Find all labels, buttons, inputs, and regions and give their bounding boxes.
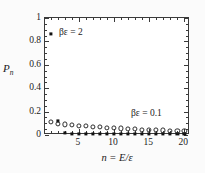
data-point-filled-square [105, 132, 108, 135]
y-tick-label: 1 [36, 12, 41, 22]
annotation-beta-epsilon-2: βε = 2 [59, 27, 83, 37]
data-point-open-circle [125, 126, 130, 131]
data-point-open-circle [55, 121, 60, 126]
y-tick-label: 0.8 [29, 35, 41, 45]
data-point-open-circle [76, 123, 81, 128]
data-point-filled-square [155, 132, 158, 135]
figure-canvas: Pn n = E/ε 00.20.40.60.81 5101520 βε = 2… [0, 0, 205, 173]
data-point-filled-square [70, 132, 73, 135]
annotation-beta-epsilon-0p1: βε = 0.1 [131, 108, 162, 118]
data-point-open-circle [111, 125, 116, 130]
data-point-open-circle [118, 126, 123, 131]
x-tick-label: 20 [179, 137, 189, 147]
data-point-open-circle [147, 127, 152, 132]
data-point-open-circle [62, 122, 67, 127]
x-tick-label: 15 [143, 137, 153, 147]
data-point-open-circle [175, 128, 180, 133]
data-point-open-circle [168, 128, 173, 133]
data-point-open-circle [140, 127, 145, 132]
data-point-open-circle [69, 122, 74, 127]
data-point-filled-square [148, 132, 151, 135]
data-point-filled-square [84, 132, 87, 135]
y-tick-label: 0.2 [29, 106, 41, 116]
plot-area: βε = 2 βε = 0.1 [44, 17, 189, 134]
x-tick-label: 10 [108, 137, 118, 147]
data-point-filled-square [141, 132, 144, 135]
data-point-open-circle [48, 119, 53, 124]
data-point-filled-square [119, 132, 122, 135]
y-axis-title: Pn [3, 62, 13, 77]
data-point-open-circle [90, 124, 95, 129]
data-point-filled-square [63, 132, 66, 135]
data-point-open-circle [154, 128, 159, 133]
data-point-filled-square [49, 32, 52, 35]
x-tick-label: 5 [75, 137, 80, 147]
major-tick [45, 135, 49, 136]
data-point-filled-square [77, 132, 80, 135]
y-tick-label: 0 [36, 129, 41, 139]
data-point-filled-square [134, 132, 137, 135]
y-tick-label: 0.4 [29, 82, 41, 92]
data-point-open-circle [133, 127, 138, 132]
data-point-open-circle [182, 129, 187, 134]
data-point-open-circle [161, 128, 166, 133]
data-point-filled-square [126, 132, 129, 135]
data-point-filled-square [98, 132, 101, 135]
data-point-open-circle [104, 125, 109, 130]
y-axis-title-subscript: n [10, 68, 14, 77]
data-point-filled-square [112, 132, 115, 135]
data-point-filled-square [91, 132, 94, 135]
y-tick-label: 0.6 [29, 59, 41, 69]
y-axis-title-main: P [3, 62, 10, 74]
data-point-open-circle [97, 124, 102, 129]
data-point-open-circle [83, 124, 88, 129]
x-axis-title: n = E/ε [101, 152, 132, 163]
